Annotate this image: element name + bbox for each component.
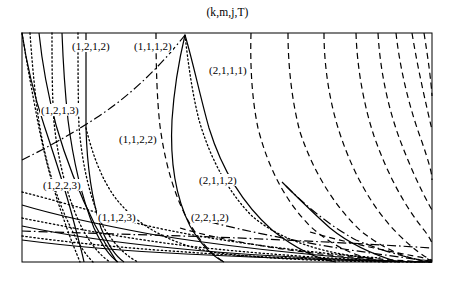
region-label: (1,2,1,2): [71, 40, 111, 52]
region-label: (1,2,1,3): [40, 104, 80, 116]
figure-container: (k,m,j,T) (1,2,1,2)(1,1,1,2)(2,1,1,1)(1,…: [0, 0, 455, 290]
region-label: (2,2,1,2): [190, 211, 230, 223]
region-label: (2,1,1,1): [208, 64, 248, 76]
region-label: (1,1,2,2): [118, 133, 158, 145]
region-label: (1,1,2,3): [97, 211, 137, 223]
region-label: (1,1,1,2): [133, 40, 173, 52]
plot-canvas: [0, 0, 455, 290]
region-label: (1,2,2,3): [42, 179, 82, 191]
region-label: (2,1,1,2): [198, 174, 238, 186]
